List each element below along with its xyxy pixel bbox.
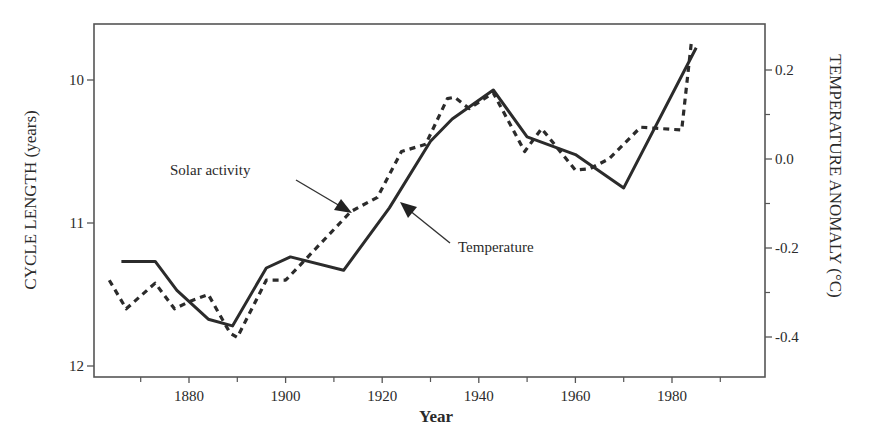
figure-caption-cropped [22,428,862,438]
y-left-tick-label: 10 [69,72,84,88]
x-tick-label: 1980 [657,388,687,404]
x-tick-label: 1940 [464,388,494,404]
x-tick-label: 1960 [560,388,590,404]
y-right-tick-label: 0.2 [775,62,794,78]
temperature-arrow-icon [400,202,450,243]
chart: 188019001920194019601980 101112 0.20.0-0… [0,0,872,438]
x-axis-ticks: 188019001920194019601980 [141,377,721,404]
solar-activity-label: Solar activity [170,162,251,178]
x-axis-title: Year [419,407,453,426]
x-tick-label: 1900 [271,388,301,404]
x-tick-label: 1880 [174,388,204,404]
y-left-axis-title: CYCLE LENGTH (years) [21,110,40,289]
y-right-axis-ticks: 0.20.0-0.2-0.4 [765,62,799,345]
plot-frame [94,24,765,377]
temperature-line [121,48,696,326]
x-tick-label: 1920 [367,388,397,404]
solar-arrow-icon [296,180,352,213]
y-right-tick-label: -0.2 [775,240,799,256]
y-right-tick-label: 0.0 [775,151,794,167]
y-left-tick-label: 12 [69,358,84,374]
y-right-axis-title: TEMPERATURE ANOMALY (°C) [826,54,845,297]
y-left-axis-ticks: 101112 [69,72,94,374]
y-right-tick-label: -0.4 [775,329,799,345]
y-left-tick-label: 11 [70,215,84,231]
temperature-label: Temperature [458,239,534,255]
series-layer [109,43,696,338]
